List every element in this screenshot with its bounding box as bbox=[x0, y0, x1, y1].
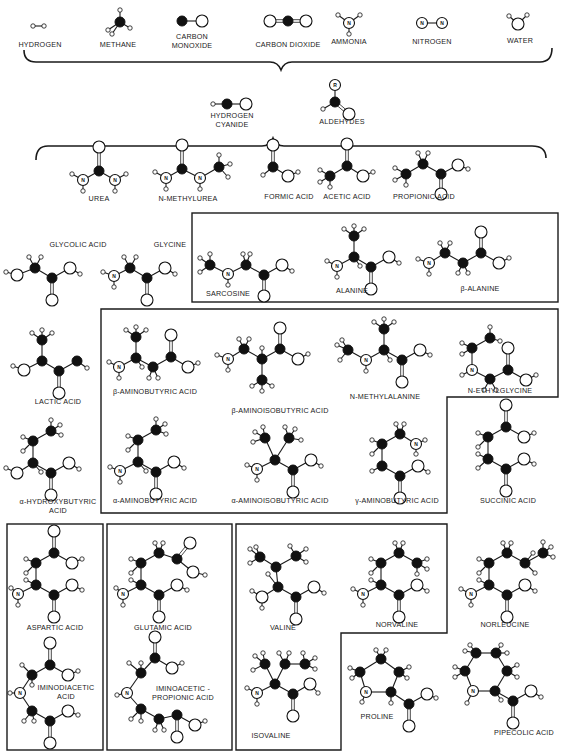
oxygen-atom-icon bbox=[500, 399, 512, 411]
oxygen-atom-icon bbox=[159, 262, 171, 274]
hydrogen-atom-icon bbox=[129, 578, 133, 582]
oxygen-atom-icon bbox=[182, 361, 194, 373]
hydrogen-atom-icon bbox=[397, 261, 401, 265]
carbon-atom-icon bbox=[349, 252, 359, 262]
molecule-beta-aminoisobutyric-acid: N bbox=[215, 322, 310, 393]
hydrogen-atom-icon bbox=[290, 269, 294, 273]
label-propionic-acid: PROPIONIC ACID bbox=[393, 192, 455, 201]
svg-text:N: N bbox=[16, 591, 20, 597]
hydrogen-atom-icon bbox=[388, 358, 392, 362]
oxygen-atom-icon bbox=[46, 294, 58, 306]
hydrogen-atom-icon bbox=[401, 541, 405, 545]
svg-text:N: N bbox=[121, 591, 125, 597]
carbon-atom-icon bbox=[377, 439, 387, 449]
oxygen-atom-icon bbox=[305, 454, 317, 466]
hydrogen-atom-icon bbox=[325, 259, 329, 263]
svg-text:N: N bbox=[255, 690, 259, 696]
hydrogen-atom-icon bbox=[4, 466, 8, 470]
hydrogen-atom-icon bbox=[499, 643, 503, 647]
hydrogen-atom-icon bbox=[549, 545, 553, 549]
hydrogen-atom-icon bbox=[113, 189, 117, 193]
hydrogen-atom-icon bbox=[318, 180, 322, 184]
hydrogen-atom-icon bbox=[117, 376, 121, 380]
oxygen-atom-icon bbox=[256, 591, 268, 603]
carbon-atom-icon bbox=[436, 169, 446, 179]
molecule-hydrogen-cyanide bbox=[211, 98, 252, 110]
carbon-atom-icon bbox=[94, 166, 104, 176]
oxygen-atom-icon bbox=[518, 431, 530, 443]
carbon-atom-icon bbox=[501, 464, 511, 474]
oxygen-atom-icon bbox=[518, 453, 530, 465]
hydrogen-atom-icon bbox=[340, 338, 344, 342]
hydrogen-atom-icon bbox=[107, 360, 111, 364]
hydrogen-atom-icon bbox=[226, 175, 230, 179]
hydrogen-atom-icon bbox=[448, 241, 452, 245]
oxygen-atom-icon bbox=[11, 467, 23, 479]
molecule-valine bbox=[248, 544, 326, 625]
hydrogen-atom-icon bbox=[196, 361, 200, 365]
hydrogen-atom-icon bbox=[350, 676, 354, 680]
carbon-atom-icon bbox=[239, 344, 249, 354]
hydrogen-atom-icon bbox=[261, 425, 265, 429]
carbon-atom-icon bbox=[330, 97, 340, 107]
svg-text:N: N bbox=[364, 689, 368, 695]
oxygen-atom-icon bbox=[44, 637, 56, 649]
hydrogen-atom-icon bbox=[139, 719, 143, 723]
oxygen-atom-icon bbox=[62, 705, 74, 717]
hydrogen-atom-icon bbox=[283, 425, 287, 429]
carbon-atom-icon bbox=[395, 429, 405, 439]
hydrogen-atom-icon bbox=[108, 465, 112, 469]
carbon-atom-icon bbox=[177, 164, 187, 174]
carbon-atom-icon bbox=[255, 552, 265, 562]
carbon-atom-icon bbox=[37, 335, 47, 345]
hydrogen-atom-icon bbox=[304, 560, 308, 564]
molecule-nitrogen: NN bbox=[417, 18, 448, 29]
label-methane: METHANE bbox=[100, 40, 137, 49]
hydrogen-atom-icon bbox=[427, 272, 431, 276]
oxygen-atom-icon bbox=[403, 720, 415, 732]
carbon-atom-icon bbox=[366, 262, 376, 272]
hydrogen-atom-icon bbox=[477, 557, 481, 561]
carbon-atom-icon bbox=[440, 248, 450, 258]
hydrogen-atom-icon bbox=[425, 567, 429, 571]
hydrogen-atom-icon bbox=[348, 666, 352, 670]
molecule-lactic-acid bbox=[11, 328, 89, 399]
hydrogen-atom-icon bbox=[476, 431, 480, 435]
hydrogen-atom-icon bbox=[336, 13, 340, 17]
carbon-atom-icon bbox=[484, 558, 494, 568]
carbon-atom-icon bbox=[376, 558, 386, 568]
hydrogen-atom-icon bbox=[476, 466, 480, 470]
carbon-atom-icon bbox=[125, 263, 135, 273]
oxygen-atom-icon bbox=[341, 138, 353, 150]
label-proline: PROLINE bbox=[361, 712, 394, 721]
hydrogen-atom-icon bbox=[414, 452, 418, 456]
molecule-pipecolic-acid: N bbox=[453, 643, 543, 729]
diagram-canvas: NNNRNNNNNNNNNNNNNNNNNNNNNNNN HYDROGENMET… bbox=[0, 0, 562, 753]
hydrogen-atom-icon bbox=[58, 423, 62, 427]
carbon-atom-icon bbox=[386, 687, 396, 697]
hydrogen-atom-icon bbox=[335, 343, 339, 347]
hydrogen-atom-icon bbox=[423, 438, 427, 442]
hydrogen-atom-icon bbox=[24, 571, 28, 575]
hydrogen-atom-icon bbox=[374, 648, 378, 652]
carbon-atom-icon bbox=[502, 666, 512, 676]
hydrogen-atom-icon bbox=[226, 368, 230, 372]
hydrogen-atom-icon bbox=[370, 452, 374, 456]
carbon-atom-icon bbox=[490, 686, 500, 696]
hydrogen-atom-icon bbox=[251, 668, 255, 672]
hydrogen-atom-icon bbox=[147, 376, 151, 380]
carbon-atom-icon bbox=[257, 375, 267, 385]
carbon-atom-icon bbox=[476, 248, 486, 258]
svg-text:N: N bbox=[420, 20, 424, 26]
hydrogen-atom-icon bbox=[30, 331, 34, 335]
carbon-atom-icon bbox=[151, 425, 161, 435]
hydrogen-atom-icon bbox=[416, 151, 420, 155]
molecule-methane bbox=[106, 8, 132, 36]
hydrogen-atom-icon bbox=[164, 187, 168, 191]
hydrogen-atom-icon bbox=[21, 449, 25, 453]
carbon-atom-icon bbox=[27, 670, 37, 680]
carbon-atom-icon bbox=[37, 356, 47, 366]
carbon-atom-icon bbox=[538, 548, 548, 558]
hydrogen-atom-icon bbox=[476, 445, 480, 449]
carbon-atom-icon bbox=[377, 461, 387, 471]
